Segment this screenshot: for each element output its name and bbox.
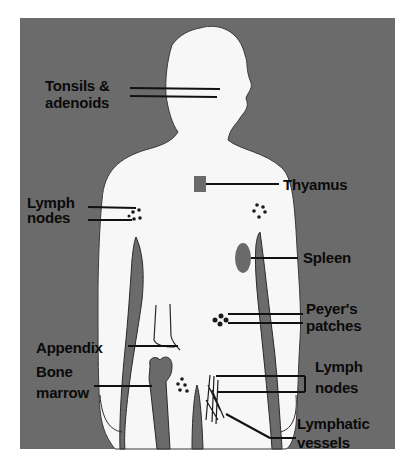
label-line: marrow [36,385,89,400]
label-peyers-patches: Peyer's patches [306,301,361,333]
label-line: nodes [315,380,363,395]
label-line: Lymph [27,195,75,210]
label-line: vessels [297,435,370,450]
label-line: Thyamus [283,177,347,192]
spleen-organ [235,243,251,273]
label-thymus: Thyamus [283,177,347,192]
label-line: Peyer's [306,301,361,316]
label-line: Bone [36,364,89,379]
label-line: adenoids [45,95,110,110]
label-line: Tonsils & [45,78,110,93]
label-line: Appendix [36,340,103,355]
label-line: Spleen [303,250,351,265]
thymus-organ [194,176,206,192]
label-line: nodes [27,210,75,225]
label-line: Lymphatic [297,416,370,431]
body-silhouette-figure [0,0,414,474]
label-lymphatic-vessels: Lymphatic vessels [297,416,370,450]
label-spleen: Spleen [303,250,351,265]
label-tonsils-adenoids: Tonsils & adenoids [45,78,110,110]
label-lymph-nodes-inguinal: Lymph nodes [315,359,363,395]
label-line: patches [306,318,361,333]
label-bone-marrow: Bone marrow [36,364,89,400]
label-appendix: Appendix [36,340,103,355]
label-lymph-nodes-axillary: Lymph nodes [27,195,75,225]
label-line: Lymph [315,359,363,374]
